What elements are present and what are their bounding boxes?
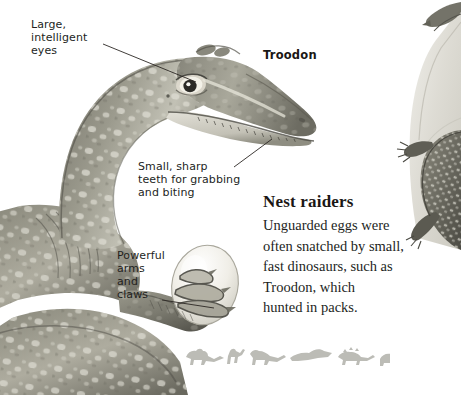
callout-large-intelligent-eyes: Large, intelligent eyes [31, 18, 103, 57]
nest-raiders-article: Nest raiders Unguarded eggs were often s… [263, 192, 453, 318]
callout-small-sharp-teeth: Small, sharp teeth for grabbing and biti… [138, 160, 250, 199]
callout-powerful-arms-and-claws: Powerful arms and claws [117, 249, 177, 301]
leader-line-arms [162, 300, 214, 308]
page-title: Nest raiders [263, 192, 453, 212]
leader-line-eyes [103, 44, 196, 82]
troodon-label: Troodon [263, 48, 317, 62]
illustrated-page: Large, intelligent eyes Small, sharp tee… [0, 0, 461, 395]
article-body-text: Unguarded eggs were often snatched by sm… [263, 215, 453, 318]
